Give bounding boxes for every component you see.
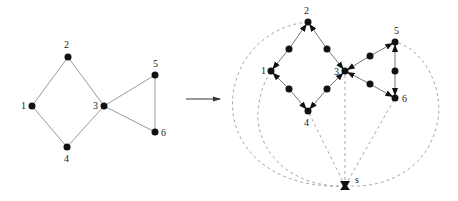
edge-2-3: [68, 57, 104, 106]
subdivision-node: [367, 53, 374, 60]
directed-edge: [310, 24, 327, 49]
node-label-s: s: [355, 174, 359, 185]
node-6: [392, 95, 399, 102]
node-label-6: 6: [402, 93, 407, 104]
node-s: [340, 181, 350, 190]
node-1: [268, 68, 275, 75]
transformed-nodes: 123456s: [261, 5, 407, 190]
node-label-5: 5: [394, 25, 399, 36]
graph-transformation-diagram: 123456 123456s: [0, 0, 458, 201]
directed-edge: [273, 49, 289, 69]
node-1: [29, 103, 36, 110]
subdivision-node: [286, 46, 293, 53]
subdivision-node: [324, 86, 331, 93]
dashed-edge-s-1: [258, 71, 345, 186]
directed-edge: [289, 89, 306, 109]
edge-3-5: [104, 75, 155, 106]
directed-edge: [289, 24, 306, 49]
node-2: [305, 19, 312, 26]
subdivision-node: [392, 68, 399, 75]
node-5: [152, 72, 159, 79]
original-graph: 123456: [21, 39, 166, 164]
edge-1-4: [32, 106, 67, 147]
dashed-edge-s-6: [345, 98, 395, 186]
directed-edge: [370, 43, 392, 56]
diagram-canvas: 123456 123456s: [0, 0, 458, 201]
node-4: [64, 144, 71, 151]
edge-3-6: [104, 106, 155, 132]
node-label-6: 6: [161, 127, 166, 138]
node-label-4: 4: [304, 117, 309, 128]
node-label-3: 3: [93, 100, 98, 111]
dashed-edge-s-4: [308, 111, 345, 186]
edge-4-3: [67, 106, 104, 147]
directed-edge: [310, 89, 327, 109]
directed-edge: [370, 84, 392, 97]
directed-edge: [348, 72, 370, 84]
node-label-4: 4: [64, 153, 69, 164]
node-2: [65, 54, 72, 61]
node-4: [305, 108, 312, 115]
dashed-edge-s-5: [345, 42, 439, 186]
dashed-edges-to-s: [232, 22, 438, 186]
subdivision-node: [324, 46, 331, 53]
node-label-2: 2: [304, 5, 309, 16]
subdivision-node: [367, 81, 374, 88]
node-6: [152, 129, 159, 136]
subdivision-node: [286, 86, 293, 93]
node-3: [342, 68, 349, 75]
transformed-graph: 123456s: [232, 5, 438, 190]
directed-edge: [348, 56, 370, 69]
node-label-1: 1: [261, 65, 266, 76]
node-label-3: 3: [334, 66, 339, 77]
node-3: [101, 103, 108, 110]
edge-1-2: [32, 57, 68, 106]
node-5: [392, 39, 399, 46]
node-label-1: 1: [21, 100, 26, 111]
node-label-5: 5: [153, 58, 158, 69]
node-label-2: 2: [64, 39, 69, 50]
